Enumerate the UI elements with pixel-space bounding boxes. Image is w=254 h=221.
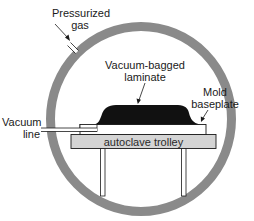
mold-baseplate-label-line1: Mold [190,86,240,98]
laminate-label-line1: Vacuum-bagged [100,59,190,71]
pressurized-gas-label: Pressurized gas [52,7,108,31]
vacuum-bagged-laminate [93,105,200,125]
laminate-label-line2: laminate [100,71,190,83]
mold-baseplate-label: Mold baseplate [190,86,240,110]
pressurized-gas-label-line2: gas [52,19,108,31]
pressurized-gas-label-line1: Pressurized [52,7,108,19]
baseplate-arrow [201,110,208,122]
laminate-label: Vacuum-bagged laminate [100,59,190,83]
autoclave-trolley-label: autoclave trolley [71,135,216,149]
trolley-leg-right [182,148,187,196]
diagram-graphics [0,0,254,221]
mold-baseplate [80,125,206,135]
vacuum-line-label-line1: Vacuum [2,116,40,128]
vacuum-line-label: Vacuum line [2,116,40,140]
trolley-leg-left [101,148,106,196]
mold-baseplate-label-line2: baseplate [190,98,240,110]
vacuum-line-tube [41,128,97,132]
vacuum-line-label-line2: line [2,128,40,140]
autoclave-diagram: Pressurized gas Vacuum-bagged laminate M… [0,0,254,221]
laminate-arrow [137,83,146,104]
